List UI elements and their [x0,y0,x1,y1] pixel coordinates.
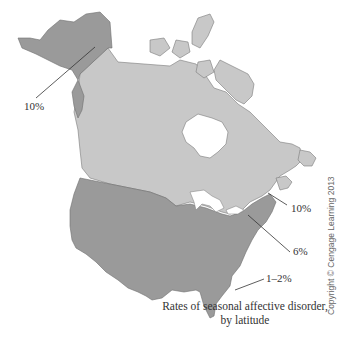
arctic-island [172,40,190,58]
maritimes [276,176,292,190]
caption-line-1: Rates of seasonal affective disorder, [140,300,344,314]
rate-label-alaska: 10% [24,101,44,112]
copyright-notice: Copyright © Cengage Learning 2013 [326,176,336,315]
arctic-island [150,38,170,56]
rate-label-mid-atlantic: 6% [293,246,308,257]
caption-line-2: by latitude [140,314,344,328]
figure-caption: Rates of seasonal affective disorder, by… [140,300,344,328]
leader-florida [235,279,264,290]
rate-label-new-england: 10% [291,203,311,214]
rate-label-florida: 1–2% [266,273,292,284]
newfoundland [298,150,316,166]
ellesmere-island [192,14,214,48]
north-america-map [0,0,344,340]
